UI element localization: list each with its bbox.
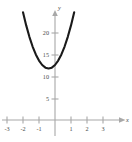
y-axis-arrow-icon [52, 10, 58, 16]
parabola-chart-figure: -3 -2 -1 1 2 3 5 10 15 20 y x [0, 0, 132, 142]
x-axis [2, 117, 126, 123]
chart-plot-area: -3 -2 -1 1 2 3 5 10 15 20 y x [0, 0, 132, 142]
y-tick-label-5: 5 [46, 95, 49, 102]
y-tick-label-10: 10 [43, 73, 49, 80]
y-axis [52, 10, 58, 136]
y-axis-label: y [57, 4, 61, 11]
x-tick-label-neg1: -1 [36, 125, 41, 132]
x-tick-label-pos2: 2 [85, 125, 88, 132]
x-tick-label-pos3: 3 [101, 125, 104, 132]
x-axis-label: x [125, 116, 129, 123]
y-tick-label-20: 20 [43, 29, 49, 36]
parabola-curve [23, 12, 74, 68]
x-axis-arrow-icon [119, 117, 126, 123]
x-tick-label-neg2: -2 [20, 125, 25, 132]
y-tick-label-15: 15 [43, 51, 49, 58]
x-tick-label-pos1: 1 [69, 125, 72, 132]
x-tick-label-neg3: -3 [4, 125, 9, 132]
